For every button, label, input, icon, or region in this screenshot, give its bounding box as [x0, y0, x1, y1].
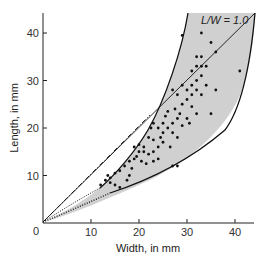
data-point	[135, 155, 138, 158]
data-point	[176, 93, 179, 96]
data-point	[186, 117, 189, 120]
data-point	[109, 176, 112, 179]
data-point	[195, 112, 198, 115]
x-tick-label: 20	[133, 226, 145, 238]
data-point	[147, 153, 150, 156]
data-point	[142, 150, 145, 153]
x-tick-label: 10	[85, 226, 97, 238]
data-point	[210, 41, 213, 44]
data-point	[138, 143, 141, 146]
data-point	[150, 127, 153, 130]
data-point	[147, 136, 150, 139]
data-point	[176, 165, 179, 168]
data-point	[159, 136, 162, 139]
data-point	[152, 150, 155, 153]
data-point	[152, 138, 155, 141]
data-point	[130, 167, 133, 170]
data-point	[214, 51, 217, 54]
data-point	[195, 79, 198, 82]
data-point	[174, 108, 177, 111]
data-point	[200, 65, 203, 68]
data-point	[238, 70, 241, 73]
data-point	[171, 131, 174, 134]
scatter-chart: 1020304010203040 0 Width, in mm Length, …	[0, 0, 271, 263]
data-point	[114, 172, 117, 175]
data-point	[186, 89, 189, 92]
data-point	[118, 186, 121, 189]
x-tick-label: 40	[229, 226, 241, 238]
data-point	[214, 89, 217, 92]
data-point	[128, 174, 131, 177]
data-point	[178, 112, 181, 115]
data-point	[181, 34, 184, 37]
data-point	[99, 184, 102, 187]
data-point	[190, 70, 193, 73]
data-point	[195, 89, 198, 92]
data-point	[106, 174, 109, 177]
data-point	[152, 122, 155, 125]
data-point	[104, 179, 107, 182]
data-point	[142, 146, 145, 149]
data-point	[157, 157, 160, 160]
data-point	[114, 184, 117, 187]
data-point	[152, 160, 155, 163]
data-point	[181, 103, 184, 106]
data-point	[176, 117, 179, 120]
data-point	[210, 112, 213, 115]
x-axis-label: Width, in mm	[116, 242, 180, 254]
y-tick-label: 30	[27, 75, 39, 87]
data-point	[133, 146, 136, 149]
data-point	[157, 146, 160, 149]
data-point	[200, 74, 203, 77]
data-point	[162, 122, 165, 125]
y-tick-label: 20	[27, 122, 39, 134]
data-point	[181, 84, 184, 87]
y-tick-label: 40	[27, 27, 39, 39]
data-point	[181, 124, 184, 127]
data-point	[157, 127, 160, 130]
lw-annotation: L/W = 1.0	[201, 14, 249, 26]
data-point	[190, 105, 193, 108]
data-point	[133, 157, 136, 160]
data-point	[171, 89, 174, 92]
data-point	[123, 165, 126, 168]
data-point	[171, 122, 174, 125]
data-point	[190, 84, 193, 87]
origin-label: 0	[33, 225, 39, 237]
data-point	[140, 160, 143, 163]
data-point	[118, 169, 121, 172]
data-point	[162, 131, 165, 134]
y-tick-label: 10	[27, 170, 39, 182]
data-point	[200, 55, 203, 58]
data-point	[200, 93, 203, 96]
data-point	[190, 93, 193, 96]
data-point	[171, 165, 174, 168]
data-point	[138, 150, 141, 153]
data-point	[186, 98, 189, 101]
data-point	[128, 160, 131, 163]
data-point	[162, 141, 165, 144]
data-point	[205, 84, 208, 87]
data-point	[195, 65, 198, 68]
data-point	[176, 136, 179, 139]
y-axis-label: Length, in mm	[8, 83, 20, 153]
data-point	[188, 122, 191, 125]
data-point	[166, 127, 169, 130]
data-point	[126, 179, 129, 182]
data-point	[166, 110, 169, 113]
data-point	[109, 181, 112, 184]
data-point	[205, 65, 208, 68]
data-point	[195, 55, 198, 58]
data-point	[200, 32, 203, 35]
data-point	[169, 146, 172, 149]
data-point	[164, 115, 167, 118]
x-tick-label: 30	[181, 226, 193, 238]
data-point	[145, 162, 148, 165]
